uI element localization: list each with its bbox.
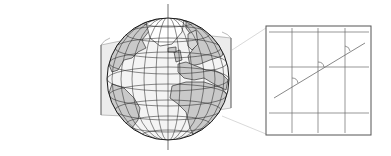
rhumb-line-inset [266,26,371,135]
mercator-diagram: Mercator projection: cylinder around glo… [0,0,391,156]
globe [107,4,229,150]
